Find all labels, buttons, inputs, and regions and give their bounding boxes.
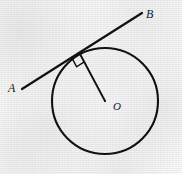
point-label-b: B [146, 8, 153, 20]
geometry-figure [0, 0, 182, 174]
radius-segment-to-center [80, 54, 105, 101]
diagram-page: A B O [0, 0, 182, 174]
center-point-dot [104, 100, 106, 102]
center-label-o: O [113, 101, 121, 112]
point-label-a: A [8, 82, 15, 94]
